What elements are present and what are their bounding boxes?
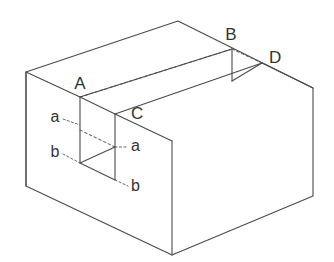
isometric-block-diagram: A B C D a b a b xyxy=(0,0,334,262)
vertex-label-b: B xyxy=(225,25,236,44)
vertex-label-d: D xyxy=(269,48,281,67)
dim-label-a-left: a xyxy=(51,108,60,125)
figure-container: A B C D a b a b xyxy=(0,0,334,262)
dim-label-b-left: b xyxy=(51,143,60,160)
dim-label-a-right: a xyxy=(131,137,140,154)
dim-label-b-right: b xyxy=(131,177,140,194)
vertex-label-a: A xyxy=(74,74,86,93)
vertex-label-c: C xyxy=(131,104,143,123)
